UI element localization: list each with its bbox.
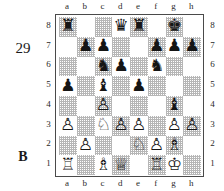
square-b5[interactable] xyxy=(77,76,95,96)
file-label-bottom-d: d xyxy=(115,179,125,188)
square-f5[interactable] xyxy=(148,76,166,96)
piece-white-pawn-a3[interactable]: ♙ xyxy=(60,116,75,133)
square-a6[interactable] xyxy=(59,57,77,77)
piece-black-pawn-a5[interactable]: ♟ xyxy=(60,77,75,94)
square-c3[interactable]: ♘ xyxy=(95,116,113,136)
square-d8[interactable]: ♛ xyxy=(112,17,130,37)
square-d3[interactable]: ♙ xyxy=(112,116,130,136)
piece-white-pawn-c4[interactable]: ♙ xyxy=(96,96,111,113)
piece-white-knight-c3[interactable]: ♘ xyxy=(96,116,111,133)
square-a1[interactable]: ♖ xyxy=(59,155,77,175)
square-g3[interactable]: ♙ xyxy=(166,116,184,136)
square-e6[interactable] xyxy=(130,57,148,77)
square-h3[interactable]: ♙ xyxy=(183,116,201,136)
square-b7[interactable]: ♟ xyxy=(77,37,95,57)
square-g7[interactable]: ♟ xyxy=(166,37,184,57)
piece-black-pawn-b7[interactable]: ♟ xyxy=(78,37,93,54)
square-e7[interactable] xyxy=(130,37,148,57)
square-h2[interactable] xyxy=(183,136,201,156)
square-b6[interactable] xyxy=(77,57,95,77)
piece-white-pawn-d3[interactable]: ♙ xyxy=(114,116,129,133)
square-g8[interactable]: ♚ xyxy=(166,17,184,37)
piece-black-pawn-e5[interactable]: ♟ xyxy=(131,77,146,94)
square-b1[interactable] xyxy=(77,155,95,175)
piece-black-pawn-h7[interactable]: ♟ xyxy=(185,37,200,54)
piece-white-king-g1[interactable]: ♔ xyxy=(167,156,182,173)
piece-white-pawn-h3[interactable]: ♙ xyxy=(185,116,200,133)
square-b3[interactable] xyxy=(77,116,95,136)
square-c6[interactable]: ♞ xyxy=(95,57,113,77)
square-c2[interactable] xyxy=(95,136,113,156)
piece-white-pawn-b2[interactable]: ♙ xyxy=(78,136,93,153)
square-e1[interactable] xyxy=(130,155,148,175)
file-label-top-d: d xyxy=(115,2,125,11)
square-f8[interactable] xyxy=(148,17,166,37)
piece-black-rook-a8[interactable]: ♜ xyxy=(60,17,75,34)
square-d4[interactable] xyxy=(112,96,130,116)
square-c7[interactable]: ♟ xyxy=(95,37,113,57)
square-h1[interactable] xyxy=(183,155,201,175)
square-f2[interactable]: ♙ xyxy=(148,136,166,156)
square-h5[interactable] xyxy=(183,76,201,96)
square-f1[interactable]: ♖ xyxy=(148,155,166,175)
square-e5[interactable]: ♟ xyxy=(130,76,148,96)
piece-black-rook-e8[interactable]: ♜ xyxy=(131,17,146,34)
piece-black-king-g8[interactable]: ♚ xyxy=(167,17,182,34)
square-g2[interactable]: ♗ xyxy=(166,136,184,156)
piece-black-pawn-g7[interactable]: ♟ xyxy=(167,37,182,54)
piece-white-pawn-e3[interactable]: ♙ xyxy=(131,116,146,133)
piece-white-knight-e2[interactable]: ♘ xyxy=(131,136,146,153)
square-c4[interactable]: ♙ xyxy=(95,96,113,116)
square-d1[interactable]: ♕ xyxy=(112,155,130,175)
square-h4[interactable] xyxy=(183,96,201,116)
piece-white-bishop-c1[interactable]: ♗ xyxy=(96,156,111,173)
piece-white-bishop-g2[interactable]: ♗ xyxy=(167,136,182,153)
square-d6[interactable]: ♟ xyxy=(112,57,130,77)
square-e8[interactable]: ♜ xyxy=(130,17,148,37)
square-d7[interactable] xyxy=(112,37,130,57)
piece-white-rook-f1[interactable]: ♖ xyxy=(149,156,164,173)
square-h8[interactable] xyxy=(183,17,201,37)
square-a8[interactable]: ♜ xyxy=(59,17,77,37)
square-f7[interactable]: ♟ xyxy=(148,37,166,57)
piece-white-pawn-g3[interactable]: ♙ xyxy=(167,116,182,133)
square-e3[interactable]: ♙ xyxy=(130,116,148,136)
square-g6[interactable] xyxy=(166,57,184,77)
square-c8[interactable] xyxy=(95,17,113,37)
square-c1[interactable]: ♗ xyxy=(95,155,113,175)
square-a3[interactable]: ♙ xyxy=(59,116,77,136)
piece-black-knight-c6[interactable]: ♞ xyxy=(96,57,111,74)
square-b8[interactable] xyxy=(77,17,95,37)
square-a4[interactable] xyxy=(59,96,77,116)
square-f3[interactable] xyxy=(148,116,166,136)
piece-black-bishop-g4[interactable]: ♝ xyxy=(167,96,182,113)
square-d5[interactable] xyxy=(112,76,130,96)
square-a2[interactable] xyxy=(59,136,77,156)
piece-black-queen-d8[interactable]: ♛ xyxy=(114,17,129,34)
square-b2[interactable]: ♙ xyxy=(77,136,95,156)
piece-white-pawn-f2[interactable]: ♙ xyxy=(149,136,164,153)
square-f4[interactable] xyxy=(148,96,166,116)
square-a7[interactable] xyxy=(59,37,77,57)
square-d2[interactable] xyxy=(112,136,130,156)
square-h7[interactable]: ♟ xyxy=(183,37,201,57)
square-h6[interactable] xyxy=(183,57,201,77)
piece-black-pawn-d6[interactable]: ♟ xyxy=(114,57,129,74)
square-e2[interactable]: ♘ xyxy=(130,136,148,156)
square-f6[interactable]: ♞ xyxy=(148,57,166,77)
piece-black-bishop-c5[interactable]: ♝ xyxy=(96,77,111,94)
piece-black-pawn-f7[interactable]: ♟ xyxy=(149,37,164,54)
piece-black-pawn-c7[interactable]: ♟ xyxy=(96,37,111,54)
rank-label-left-7: 7 xyxy=(44,41,53,50)
square-e4[interactable] xyxy=(130,96,148,116)
square-b4[interactable] xyxy=(77,96,95,116)
square-c5[interactable]: ♝ xyxy=(95,76,113,96)
square-g4[interactable]: ♝ xyxy=(166,96,184,116)
rank-label-left-4: 4 xyxy=(44,100,53,109)
square-a5[interactable]: ♟ xyxy=(59,76,77,96)
square-g5[interactable] xyxy=(166,76,184,96)
piece-black-knight-f6[interactable]: ♞ xyxy=(149,57,164,74)
square-g1[interactable]: ♔ xyxy=(166,155,184,175)
piece-white-rook-a1[interactable]: ♖ xyxy=(60,156,75,173)
piece-white-queen-d1[interactable]: ♕ xyxy=(114,156,129,173)
